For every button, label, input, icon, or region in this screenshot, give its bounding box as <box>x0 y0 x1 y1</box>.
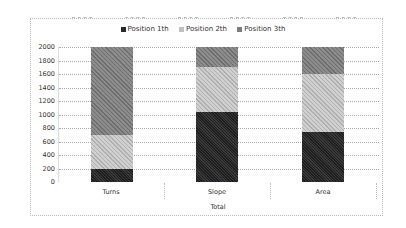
bar-segment[interactable] <box>196 67 238 112</box>
legend-label: Position 2th <box>186 25 227 33</box>
legend-swatch-icon <box>179 27 184 32</box>
bar-area[interactable] <box>302 47 344 182</box>
field-button[interactable] <box>125 17 145 20</box>
legend-swatch-icon <box>237 27 242 32</box>
y-tick-label: 2000 <box>25 43 55 51</box>
bar-segment[interactable] <box>91 135 133 169</box>
y-tick-label: 1000 <box>25 111 55 119</box>
legend-label: Position 1th <box>128 25 169 33</box>
field-button[interactable] <box>336 17 356 20</box>
chart-legend: Position 1th Position 2th Position 3th <box>0 25 406 33</box>
y-tick-label: 1800 <box>25 57 55 65</box>
legend-swatch-icon <box>121 27 126 32</box>
x-category-label: Turns <box>58 188 164 196</box>
field-button[interactable] <box>72 17 92 20</box>
bar-segment[interactable] <box>91 169 133 183</box>
field-button[interactable] <box>230 17 250 20</box>
y-tick-label: 400 <box>25 151 55 159</box>
plot-area: 2000 1800 1600 1400 1200 1000 800 600 40… <box>58 47 379 182</box>
y-tick-label: 1400 <box>25 84 55 92</box>
bar-segment[interactable] <box>196 112 238 182</box>
x-category-label: Slope <box>164 188 270 196</box>
y-tick-label: 0 <box>25 178 55 186</box>
y-tick-label: 1200 <box>25 97 55 105</box>
category-separator <box>376 183 377 199</box>
legend-item-position-1: Position 1th <box>121 25 169 33</box>
y-tick-label: 800 <box>25 124 55 132</box>
bar-slope[interactable] <box>196 47 238 182</box>
bar-segment[interactable] <box>196 47 238 67</box>
y-tick-label: 600 <box>25 138 55 146</box>
x-category-label: Area <box>270 188 376 196</box>
bar-segment[interactable] <box>91 47 133 135</box>
y-tick-label: 200 <box>25 165 55 173</box>
bar-segment[interactable] <box>302 132 344 182</box>
field-button[interactable] <box>178 17 198 20</box>
x-axis: Turns Slope Area Total <box>58 183 378 213</box>
legend-label: Position 3th <box>244 25 285 33</box>
x-group-label: Total <box>58 203 378 211</box>
y-tick-label: 1600 <box>25 70 55 78</box>
bar-segment[interactable] <box>302 74 344 132</box>
field-button[interactable] <box>283 17 303 20</box>
bar-turns[interactable] <box>91 47 133 182</box>
bar-segment[interactable] <box>302 47 344 74</box>
legend-item-position-2: Position 2th <box>179 25 227 33</box>
legend-item-position-3: Position 3th <box>237 25 285 33</box>
